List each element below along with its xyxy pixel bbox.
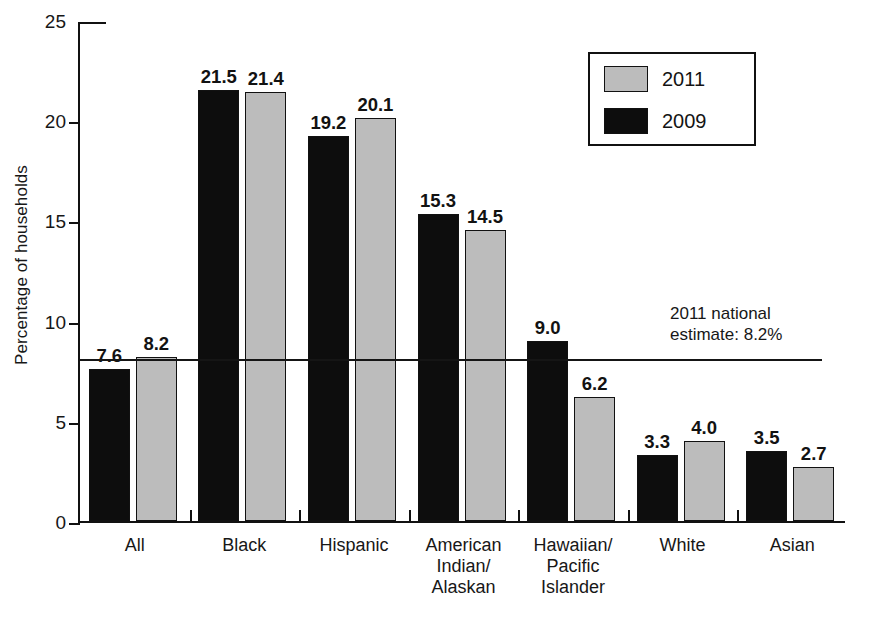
legend-item-2009: 2009 — [604, 108, 707, 134]
bar-2009-hawaiian/-pacific-islander — [527, 341, 568, 521]
y-axis-tick-label: 5 — [20, 413, 66, 432]
x-axis-tick — [518, 510, 520, 523]
legend-label: 2011 — [662, 69, 705, 89]
bar-2011-all — [136, 357, 177, 521]
bar-value-label: 3.5 — [740, 429, 793, 448]
bar-2011-hawaiian/-pacific-islander — [574, 397, 615, 521]
bar-2009-white — [637, 455, 678, 521]
legend-item-2011: 2011 — [604, 66, 705, 92]
y-axis-tick-15 — [69, 222, 80, 224]
y-axis-title-text: Percentage of households — [12, 165, 32, 365]
y-axis-tick-label: 15 — [20, 212, 66, 231]
x-axis-tick — [628, 510, 630, 523]
x-axis-tick — [737, 510, 739, 523]
bar-value-label: 19.2 — [302, 114, 355, 133]
bar-value-label: 9.0 — [521, 319, 574, 338]
y-axis-tick-label: 25 — [20, 12, 66, 31]
bar-value-label: 20.1 — [349, 96, 402, 115]
y-axis-tick-label: 10 — [20, 313, 66, 332]
chart-screenshot: Percentage of households 05101520257.68.… — [0, 0, 869, 621]
bar-value-label: 2.7 — [787, 445, 840, 464]
bar-2011-asian — [793, 467, 834, 521]
bar-value-label: 3.3 — [631, 433, 684, 452]
x-axis-tick — [299, 510, 301, 523]
bar-2011-black — [245, 92, 286, 521]
bar-2009-hispanic — [308, 136, 349, 521]
bar-value-label: 14.5 — [459, 208, 512, 227]
bar-value-label: 7.6 — [83, 347, 136, 366]
x-axis-tick — [409, 510, 411, 523]
reference-line-annotation: 2011 national estimate: 8.2% — [670, 303, 782, 346]
bar-value-label: 21.5 — [192, 68, 245, 87]
x-axis-tick — [190, 510, 192, 523]
y-axis-tick-label: 0 — [20, 513, 66, 532]
x-axis-category-label: Asian — [725, 535, 859, 556]
reference-line — [80, 359, 822, 361]
chart-legend: 20112009 — [588, 52, 756, 146]
bar-value-label: 4.0 — [678, 419, 731, 438]
legend-swatch-2011 — [604, 66, 648, 92]
y-axis-tick-10 — [69, 323, 80, 325]
y-axis-tick-5 — [69, 423, 80, 425]
y-axis-tick-20 — [69, 122, 80, 124]
bar-value-label: 6.2 — [568, 375, 621, 394]
bar-2009-asian — [746, 451, 787, 521]
bar-2011-white — [684, 441, 725, 521]
bar-2009-american-indian/-alaskan — [418, 214, 459, 521]
bar-value-label: 15.3 — [412, 192, 465, 211]
y-axis-tick-0 — [69, 523, 80, 525]
bar-value-label: 21.4 — [239, 70, 292, 89]
legend-swatch-2009 — [604, 108, 648, 134]
bar-2011-american-indian/-alaskan — [465, 230, 506, 521]
bar-2011-hispanic — [355, 118, 396, 521]
y-axis-tick-label: 20 — [20, 112, 66, 131]
bar-value-label: 8.2 — [130, 335, 183, 354]
bar-2009-black — [198, 90, 239, 521]
bar-2009-all — [89, 369, 130, 521]
y-axis-title: Percentage of households — [0, 0, 44, 530]
y-axis-tick-25 — [80, 22, 106, 24]
legend-label: 2009 — [662, 111, 707, 131]
